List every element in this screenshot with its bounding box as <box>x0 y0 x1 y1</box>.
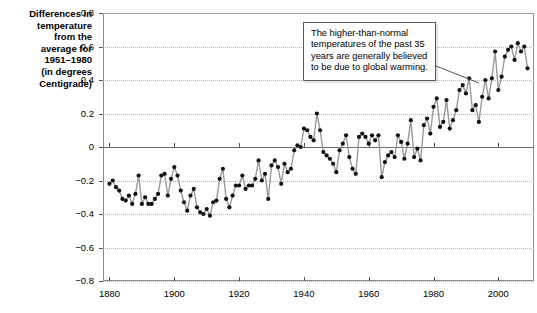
y-tick-label: 0.2 <box>63 108 94 119</box>
x-tick-label: 2000 <box>473 288 523 299</box>
gridline-y--0.4 <box>103 214 534 215</box>
gridline-y--0.2 <box>103 181 534 182</box>
y-tick-label: 0.4 <box>63 74 94 85</box>
x-tick-label: 1920 <box>214 288 264 299</box>
zero-line <box>103 147 534 148</box>
y-tick-mark <box>99 248 103 249</box>
y-tick-label: 0.6 <box>63 41 94 52</box>
x-tick-mark <box>369 143 370 147</box>
x-tick-mark <box>174 277 175 281</box>
x-tick-mark <box>498 143 499 147</box>
y-tick-mark <box>99 281 103 282</box>
y-tick-mark <box>99 80 103 81</box>
x-tick-mark <box>369 277 370 281</box>
x-tick-mark <box>498 277 499 281</box>
x-tick-mark <box>304 143 305 147</box>
x-tick-mark <box>109 277 110 281</box>
y-tick-label: 0 <box>63 141 94 152</box>
gridline-y-0.8 <box>103 13 534 14</box>
x-tick-label: 1940 <box>279 288 329 299</box>
x-tick-mark <box>239 143 240 147</box>
gridline-y--0.6 <box>103 248 534 249</box>
x-tick-label: 1880 <box>84 288 134 299</box>
x-tick-label: 1960 <box>344 288 394 299</box>
y-tick-mark <box>99 13 103 14</box>
x-tick-mark <box>434 277 435 281</box>
x-tick-mark <box>304 277 305 281</box>
y-tick-label: −0.4 <box>63 208 94 219</box>
gridline-y-0.2 <box>103 114 534 115</box>
y-tick-label: −0.8 <box>63 275 94 286</box>
y-tick-label: 0.8 <box>63 7 94 18</box>
x-tick-mark <box>434 143 435 147</box>
annotation-callout: The higher-than-normal temperatures of t… <box>303 22 436 81</box>
y-tick-mark <box>99 214 103 215</box>
y-tick-mark <box>99 147 103 148</box>
y-tick-mark <box>99 47 103 48</box>
x-tick-mark <box>174 143 175 147</box>
x-tick-label: 1900 <box>149 288 199 299</box>
y-tick-label: −0.2 <box>63 175 94 186</box>
y-tick-label: −0.6 <box>63 242 94 253</box>
x-tick-mark <box>239 277 240 281</box>
temperature-anomaly-chart: Differences in temperature from the aver… <box>0 0 537 313</box>
y-tick-mark <box>99 114 103 115</box>
x-tick-mark <box>109 143 110 147</box>
gridline-y--0.8 <box>103 281 534 282</box>
x-tick-label: 1980 <box>409 288 459 299</box>
y-tick-mark <box>99 181 103 182</box>
